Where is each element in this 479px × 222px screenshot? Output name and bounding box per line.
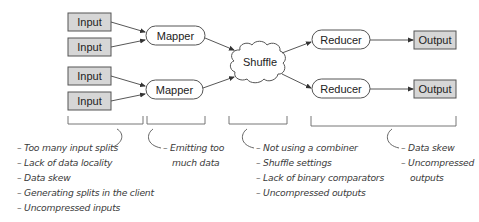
shuffle-label: Shuffle (243, 56, 277, 68)
arrow-shuffle-reducer1 (282, 42, 311, 53)
input-label: Input (77, 16, 101, 28)
reducer-node-2: Reducer (312, 79, 370, 98)
arrow-shuffle-reducer2 (282, 74, 311, 88)
note-line: – Data skew (401, 140, 474, 155)
note-line: outputs (401, 170, 474, 185)
shuffle-cloud-node: Shuffle (230, 41, 285, 83)
shuffle-bracket (229, 116, 287, 124)
arrow-input4-mapper2 (111, 94, 145, 101)
input-node-4: Input (68, 92, 111, 110)
shuffle-pointer-curve (242, 129, 254, 148)
note-line: – Data skew (17, 170, 154, 185)
note-line: – Uncompressed inputs (17, 200, 154, 215)
arrow-mapper1-shuffle (205, 38, 234, 50)
arrow-input3-mapper2 (111, 76, 145, 86)
reducer-label: Reducer (320, 83, 362, 95)
input-issues-note: – Too many input splits – Lack of data l… (17, 140, 154, 215)
reducer-issues-note: – Data skew – Uncompressed outputs (401, 140, 474, 185)
note-line: – Emitting too (163, 140, 224, 155)
input-label: Input (77, 70, 101, 82)
note-line: – Shuffle settings (256, 155, 384, 170)
note-line: – Uncompressed outputs (256, 185, 384, 200)
note-line: – Uncompressed (401, 155, 474, 170)
mapper-node-1: Mapper (146, 26, 205, 45)
note-line: – Generating splits in the client (17, 185, 154, 200)
input-bracket (68, 116, 143, 124)
arrow-mapper2-shuffle (203, 77, 234, 88)
input-label: Input (77, 41, 101, 53)
note-line: much data (163, 155, 224, 170)
input-node-1: Input (68, 13, 111, 31)
input-node-3: Input (68, 67, 111, 85)
arrow-input2-mapper1 (111, 40, 145, 47)
note-line: – Too many input splits (17, 140, 154, 155)
mapper-bracket (147, 116, 205, 124)
mapper-label: Mapper (157, 30, 195, 42)
note-line: – Lack of data locality (17, 155, 154, 170)
note-line: – Lack of binary comparators (256, 170, 384, 185)
output-label: Output (418, 34, 451, 46)
output-node-1: Output (414, 31, 456, 49)
input-label: Input (77, 95, 101, 107)
mapper-node-2: Mapper (146, 80, 203, 99)
output-node-2: Output (414, 80, 456, 98)
reducer-node-1: Reducer (312, 30, 370, 49)
input-node-2: Input (68, 38, 111, 56)
note-line: – Not using a combiner (256, 140, 384, 155)
mapper-label: Mapper (156, 84, 194, 96)
reducer-output-bracket (311, 116, 456, 126)
output-label: Output (418, 83, 451, 95)
shuffle-issues-note: – Not using a combiner – Shuffle setting… (256, 140, 384, 200)
mapper-issues-note: – Emitting too much data (163, 140, 224, 170)
reducer-label: Reducer (320, 34, 362, 46)
arrow-input1-mapper1 (111, 22, 145, 32)
reducer-pointer-curve (387, 129, 399, 148)
